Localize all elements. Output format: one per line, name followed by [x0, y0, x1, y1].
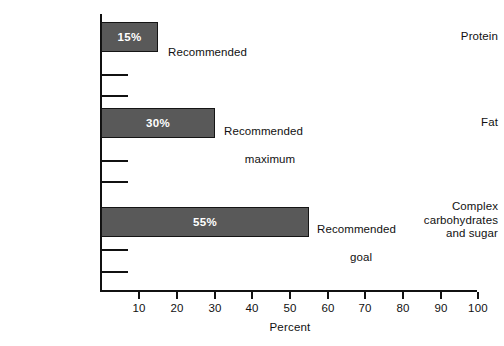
x-axis-label-20: 20 [157, 302, 197, 314]
category-label-protein: Protein [408, 30, 504, 44]
x-axis-label-80: 80 [383, 302, 423, 314]
bar-fat: 30% [101, 108, 215, 138]
category-label-fat-text: Fat [481, 116, 498, 128]
category-label-protein-text: Protein [461, 30, 498, 42]
bar-chart: Protein Fat Complex carbohydrates and su… [0, 0, 504, 346]
x-axis-label-10: 10 [119, 302, 159, 314]
bar-value-carbohydrates: 55% [102, 216, 308, 228]
x-axis-tick-80 [402, 292, 404, 299]
x-axis-label-50: 50 [270, 302, 310, 314]
x-axis-label-30: 30 [195, 302, 235, 314]
annotation-carbs-line2: goal [317, 250, 427, 264]
x-axis-label-70: 70 [345, 302, 385, 314]
y-axis-minor-tick [102, 95, 128, 97]
x-axis-tick-100 [477, 292, 479, 299]
y-axis-minor-tick [102, 160, 128, 162]
annotation-carbohydrates: Recommended goal [317, 208, 427, 278]
x-axis-tick-20 [176, 292, 178, 299]
x-axis-label-40: 40 [232, 302, 272, 314]
x-axis-label-100: 100 [458, 302, 498, 314]
x-axis-tick-40 [251, 292, 253, 299]
annotation-fat-line2: maximum [224, 152, 334, 166]
x-axis-title-text: Percent [269, 321, 310, 333]
bar-protein: 15% [101, 22, 158, 52]
x-axis-tick-60 [327, 292, 329, 299]
bar-carbohydrates: 55% [101, 207, 309, 237]
x-axis-tick-50 [289, 292, 291, 299]
annotation-fat-line1: Recommended [224, 124, 334, 138]
y-axis-minor-tick [102, 271, 128, 273]
annotation-carbs-line1: Recommended [317, 222, 427, 236]
x-axis-tick-70 [364, 292, 366, 299]
x-axis-tick-10 [138, 292, 140, 299]
annotation-protein: Recommended [168, 31, 288, 73]
annotation-fat: Recommended maximum [224, 110, 334, 180]
y-axis-minor-tick [102, 249, 128, 251]
category-label-fat: Fat [408, 116, 504, 130]
y-axis-minor-tick [102, 181, 128, 183]
x-axis-title: Percent [0, 321, 504, 333]
x-axis-label-60: 60 [308, 302, 348, 314]
x-axis-label-90: 90 [421, 302, 461, 314]
y-axis-minor-tick [102, 74, 128, 76]
x-axis-tick-30 [214, 292, 216, 299]
annotation-protein-line1: Recommended [168, 45, 288, 59]
bar-value-protein: 15% [102, 31, 157, 43]
bar-value-fat: 30% [102, 117, 214, 129]
x-axis-tick-90 [440, 292, 442, 299]
